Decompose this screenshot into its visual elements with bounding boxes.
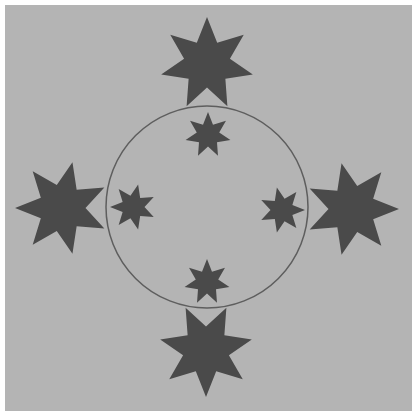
large-star-bottom-icon	[160, 308, 252, 397]
small-star-left-icon	[110, 185, 154, 230]
small-stars-group	[110, 112, 305, 303]
small-star-bottom-icon	[185, 259, 230, 303]
large-star-top-icon	[161, 17, 253, 106]
large-star-left-icon	[15, 162, 104, 254]
large-star-right-icon	[310, 163, 399, 255]
small-star-top-icon	[186, 112, 231, 156]
large-stars-group	[15, 17, 399, 397]
star-circle-diagram	[0, 0, 414, 418]
small-star-right-icon	[261, 188, 305, 233]
